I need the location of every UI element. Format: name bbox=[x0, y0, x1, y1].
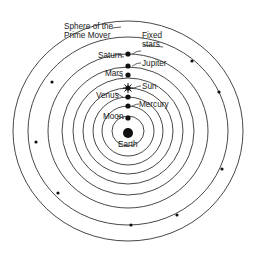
star-dot bbox=[56, 191, 59, 194]
sun-star-icon bbox=[123, 83, 133, 93]
mars-dot bbox=[125, 72, 130, 77]
mercury-label: Mercury bbox=[139, 100, 169, 109]
star-dot bbox=[190, 59, 193, 62]
moon-label: Moon bbox=[103, 112, 124, 121]
sun-label: Sun bbox=[142, 82, 157, 91]
mercury-dot bbox=[125, 103, 130, 108]
venus-label: Venus bbox=[96, 91, 119, 100]
geocentric-diagram: Sphere of the Prime Mover Fixed stars Sa… bbox=[0, 0, 255, 261]
fixed-stars-label: Fixed bbox=[142, 31, 162, 40]
prime-mover-label: Sphere of the bbox=[64, 22, 114, 31]
jupiter-dot bbox=[125, 63, 130, 68]
star-dot bbox=[175, 213, 178, 216]
star-dot bbox=[220, 167, 223, 170]
star-dot bbox=[50, 80, 53, 83]
venus-dot bbox=[125, 94, 130, 99]
mars-label: Mars bbox=[105, 69, 123, 78]
star-dot bbox=[34, 140, 37, 143]
prime-mover-label-2: Prime Mover bbox=[64, 31, 111, 40]
jupiter-label: Jupiter bbox=[142, 59, 167, 68]
planet-markers bbox=[123, 51, 133, 138]
fixed-stars-label-2: stars bbox=[142, 40, 160, 49]
star-dot bbox=[217, 90, 220, 93]
saturn-dot bbox=[125, 51, 130, 56]
star-dot bbox=[129, 223, 132, 226]
moon-dot bbox=[125, 115, 130, 120]
saturn-label: Saturn bbox=[98, 51, 123, 60]
earth-label: Earth bbox=[118, 140, 138, 149]
earth-dot bbox=[123, 128, 133, 138]
